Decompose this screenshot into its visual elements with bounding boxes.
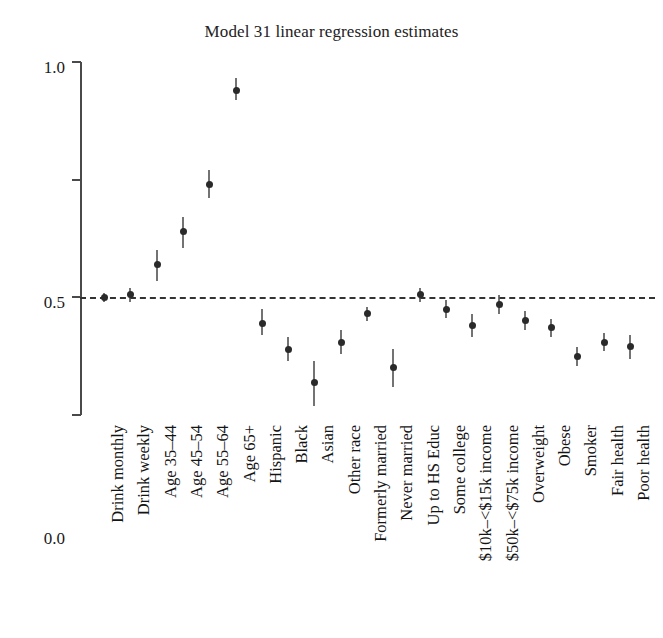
x-tick-label: Never married <box>399 425 416 521</box>
x-tick-label: $50k–<$75k income <box>505 425 522 561</box>
x-tick-label: Drink weekly <box>136 425 153 515</box>
point-estimate-marker <box>496 301 503 308</box>
plot-area: 1.00.50.0-0.5 <box>80 55 655 425</box>
point-estimate-marker <box>548 324 555 331</box>
point-estimate-marker <box>390 364 397 371</box>
point-estimate-marker <box>364 310 371 317</box>
regression-estimates-figure: Model 31 linear regression estimates 1.0… <box>0 0 663 638</box>
point-estimate-marker <box>443 306 450 313</box>
x-tick-label: Smoker <box>583 425 600 476</box>
y-tick-label: 1.0 <box>44 58 65 78</box>
point-estimate-marker <box>469 322 476 329</box>
x-tick-label: $10k–<$15k income <box>478 425 495 561</box>
y-tick-mark: 1.0 <box>72 61 81 63</box>
x-tick-label: Fair health <box>610 425 627 496</box>
point-estimate-marker <box>338 339 345 346</box>
point-estimate-marker <box>285 346 292 353</box>
x-axis-tick-labels: Drink monthlyDrink weeklyAge 35–44Age 45… <box>80 425 655 635</box>
x-tick-label: Age 35–44 <box>163 425 180 498</box>
point-estimate-marker <box>206 181 213 188</box>
point-estimate-marker <box>574 353 581 360</box>
x-tick-label: Age 45–54 <box>189 425 206 498</box>
x-tick-label: Age 65+ <box>242 425 259 482</box>
x-tick-label: Asian <box>320 425 337 464</box>
point-estimate-marker <box>627 343 634 350</box>
x-tick-label: Formerly married <box>373 425 390 542</box>
x-tick-label: Up to HS Educ <box>426 425 443 525</box>
y-tick-label: 0.0 <box>44 529 65 549</box>
zero-reference-line <box>80 297 655 299</box>
y-tick-label: 0.5 <box>44 293 65 313</box>
point-estimate-marker <box>259 320 266 327</box>
x-tick-label: Other race <box>347 425 364 494</box>
point-estimate-marker <box>522 317 529 324</box>
x-tick-label: Drink monthly <box>110 425 127 523</box>
point-estimate-marker <box>101 294 108 301</box>
x-tick-label: Overweight <box>531 425 548 503</box>
x-tick-label: Obese <box>557 425 574 466</box>
y-axis-spine <box>80 62 82 415</box>
point-estimate-marker <box>154 261 161 268</box>
x-tick-label: Some college <box>452 425 469 514</box>
point-estimate-marker <box>311 379 318 386</box>
point-estimate-marker <box>601 339 608 346</box>
x-tick-label: Black <box>294 425 311 464</box>
y-tick-mark: -0.5 <box>72 414 81 416</box>
point-estimate-marker <box>180 228 187 235</box>
x-tick-label: Hispanic <box>268 425 285 484</box>
chart-title: Model 31 linear regression estimates <box>0 22 663 42</box>
x-tick-label: Age 55–64 <box>215 425 232 498</box>
y-tick-mark: 0.5 <box>72 179 81 181</box>
point-estimate-marker <box>233 87 240 94</box>
x-tick-label: Poor health <box>636 425 653 501</box>
